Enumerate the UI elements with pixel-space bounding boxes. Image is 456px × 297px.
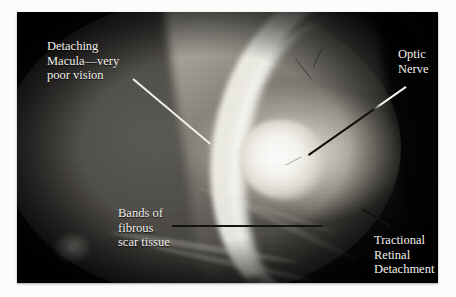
leader-line-bands-of-fibrous-scar-tissue [172, 225, 323, 227]
label-optic-nerve: Optic Nerve [398, 47, 429, 76]
label-detaching-macula: Detaching Macula—very poor vision [47, 39, 119, 83]
fundus-photograph: Detaching Macula—very poor vision Optic … [17, 12, 438, 283]
figure-page: Detaching Macula—very poor vision Optic … [0, 0, 456, 297]
peripheral-bright-spot [55, 234, 89, 262]
label-tractional-retinal-detachment: Tractional Retinal Detachment [374, 233, 434, 277]
label-bands-of-fibrous-scar-tissue: Bands of fibrous scar tissue [118, 206, 170, 250]
